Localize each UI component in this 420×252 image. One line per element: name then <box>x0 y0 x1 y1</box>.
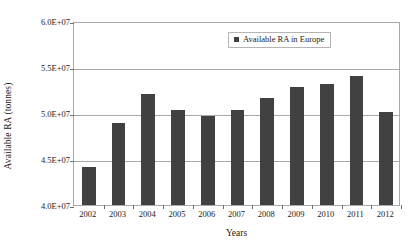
x-axis-tick-mark <box>342 205 343 209</box>
x-axis-tick-label: 2011 <box>341 210 371 219</box>
bar <box>112 123 126 205</box>
x-axis-tick-mark <box>193 205 194 209</box>
bar-series-available-ra-in-europe <box>74 23 399 205</box>
bar <box>231 110 245 205</box>
legend-entry-label: Available RA in Europe <box>243 35 324 44</box>
x-axis-tick-mark <box>401 205 402 209</box>
y-axis-tick-label: 4.5E+07 <box>18 156 70 165</box>
bar-chart: Available RA (tonnes) 4.0E+074.5E+075.0E… <box>0 0 420 252</box>
y-axis-tick-label: 4.0E+07 <box>18 202 70 211</box>
x-axis-title: Years <box>73 228 400 238</box>
x-axis-tick-mark <box>312 205 313 209</box>
x-axis-tick-label: 2004 <box>132 210 162 219</box>
bar <box>141 94 155 205</box>
x-axis-tick-label: 2002 <box>73 210 103 219</box>
x-axis-tick-mark <box>252 205 253 209</box>
x-axis-tick-mark <box>371 205 372 209</box>
y-axis-title: Available RA (tonnes) <box>0 0 16 252</box>
x-axis-tick-labels: 2002200320042005200620072008200920102011… <box>73 210 400 224</box>
x-axis-tick-mark <box>282 205 283 209</box>
legend-swatch-icon <box>234 37 239 42</box>
bar <box>82 167 96 205</box>
bar <box>290 87 304 205</box>
bar <box>260 98 274 205</box>
y-axis-tick-mark <box>70 207 74 208</box>
x-axis-tick-mark <box>223 205 224 209</box>
chart-legend: Available RA in Europe <box>228 32 331 48</box>
plot-area <box>73 22 400 206</box>
bar <box>320 84 334 205</box>
x-axis-tick-label: 2007 <box>222 210 252 219</box>
y-axis-tick-label: 5.0E+07 <box>18 110 70 119</box>
y-axis-tick-labels: 4.0E+074.5E+075.0E+075.5E+076.0E+07 <box>16 0 70 252</box>
x-axis-tick-label: 2003 <box>103 210 133 219</box>
x-axis-tick-mark <box>133 205 134 209</box>
x-axis-tick-label: 2012 <box>370 210 400 219</box>
y-axis-tick-label: 6.0E+07 <box>18 18 70 27</box>
x-axis-tick-label: 2005 <box>162 210 192 219</box>
bar <box>350 76 364 205</box>
bar <box>379 112 393 205</box>
x-axis-tick-mark <box>104 205 105 209</box>
bar <box>171 110 185 205</box>
x-axis-tick-label: 2010 <box>311 210 341 219</box>
x-axis-tick-label: 2006 <box>192 210 222 219</box>
bar <box>201 116 215 205</box>
x-axis-tick-mark <box>163 205 164 209</box>
y-axis-tick-label: 5.5E+07 <box>18 64 70 73</box>
x-axis-tick-label: 2009 <box>281 210 311 219</box>
x-axis-tick-label: 2008 <box>251 210 281 219</box>
